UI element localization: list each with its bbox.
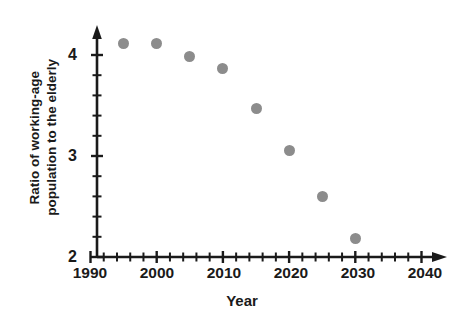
data-point-2025 [317, 191, 328, 202]
data-point-2015 [251, 103, 262, 114]
y-tick-label-4: 4 [55, 47, 77, 63]
x-axis-arrow-icon [432, 252, 447, 262]
chart-figure: Ratio of working-age population to the e… [0, 0, 454, 319]
x-tick-label-2040: 2040 [397, 265, 453, 281]
x-axis-title: Year [0, 292, 454, 309]
x-axis-title-text: Year [226, 292, 258, 309]
data-point-2010 [217, 63, 228, 74]
data-point-2005 [184, 51, 195, 62]
x-tick-label-2010: 2010 [196, 265, 252, 281]
y-tick-label-2: 2 [55, 249, 77, 265]
x-tick-label-1990: 1990 [62, 265, 118, 281]
x-tick-label-2030: 2030 [330, 265, 386, 281]
y-axis-arrow-icon [92, 25, 102, 39]
y-tick-label-3: 3 [55, 148, 77, 164]
x-tick-label-2000: 2000 [129, 265, 185, 281]
x-tick-label-2020: 2020 [263, 265, 319, 281]
data-point-2020 [284, 145, 295, 156]
